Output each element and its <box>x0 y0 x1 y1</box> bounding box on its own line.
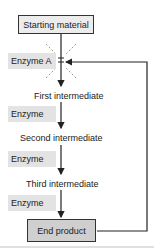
enzyme-box-2: Enzyme <box>8 106 56 122</box>
enzyme-a-box: Enzyme A <box>8 53 56 69</box>
second-intermediate-label: Second intermediate <box>20 133 103 143</box>
end-product-label: End product <box>37 226 86 236</box>
enzyme-label-4: Enzyme <box>11 198 44 208</box>
starting-material-box: Starting material <box>18 15 94 34</box>
third-intermediate-label: Third intermediate <box>26 179 99 189</box>
enzyme-label-2: Enzyme <box>11 109 44 119</box>
starting-material-label: Starting material <box>23 20 89 30</box>
enzyme-box-3: Enzyme <box>8 151 56 167</box>
enzyme-label-3: Enzyme <box>11 154 44 164</box>
first-intermediate-label: First intermediate <box>34 91 104 101</box>
enzyme-a-label: Enzyme A <box>11 56 52 66</box>
enzyme-box-4: Enzyme <box>8 195 56 211</box>
end-product-box: End product <box>27 219 96 242</box>
